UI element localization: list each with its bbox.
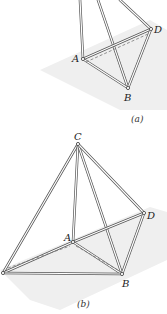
- label-b-C: C: [74, 131, 82, 142]
- label-a-D: D: [153, 24, 162, 35]
- tetrahedron-diagram: A B D (a) C D A B (b): [0, 0, 167, 314]
- label-a-B: B: [123, 92, 131, 103]
- label-a-A: A: [71, 53, 79, 64]
- caption-a: (a): [131, 114, 144, 124]
- caption-b: (b): [77, 299, 90, 309]
- label-b-A: A: [63, 232, 71, 243]
- label-b-D: D: [146, 210, 155, 221]
- label-b-B: B: [121, 278, 129, 289]
